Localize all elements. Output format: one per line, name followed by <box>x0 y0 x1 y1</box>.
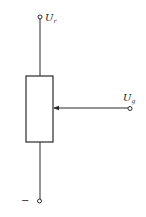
wiper-terminal-circle <box>128 107 132 111</box>
top-terminal: Ur <box>38 12 57 24</box>
top-terminal-label: Ur <box>45 12 57 24</box>
top-label-sub: r <box>53 17 57 24</box>
resistor-body <box>26 76 53 142</box>
wiper-terminal-label: Ug <box>123 92 135 105</box>
potentiometer-diagram: Ur Ug − <box>0 0 146 217</box>
bottom-terminal-circle <box>38 199 42 203</box>
bottom-terminal-label: − <box>21 195 29 206</box>
bottom-terminal: − <box>21 195 42 206</box>
wiper-label-sub: g <box>131 97 135 105</box>
top-terminal-circle <box>38 15 42 19</box>
